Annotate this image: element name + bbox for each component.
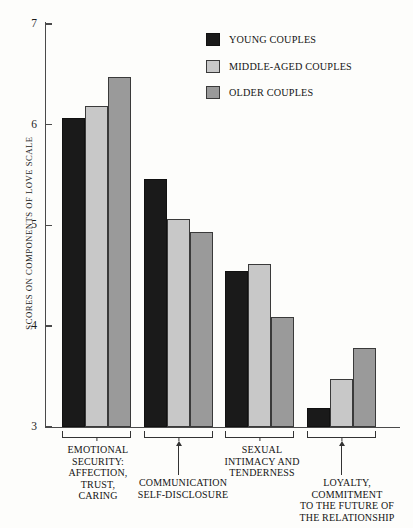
category-label-line: SELF-DISCLOSURE [122, 489, 244, 501]
y-tick-label: 5 [7, 219, 37, 231]
category-label-line: SEXUAL [212, 444, 312, 456]
category-bracket [62, 431, 131, 440]
category-label-line: SECURITY: [48, 456, 148, 468]
bar [330, 379, 353, 426]
love-scale-bar-chart: SCORES ON COMPONENTS OF LOVE SCALE 76543… [0, 0, 413, 528]
legend-swatch-icon [206, 60, 220, 73]
category-bracket [225, 431, 294, 440]
bar [190, 232, 213, 426]
bar [108, 77, 131, 426]
category-label: COMMUNICATIONSELF-DISCLOSURE [122, 477, 244, 500]
legend-swatch-icon [206, 86, 220, 99]
bracket-left-arm [307, 431, 308, 438]
bracket-right-arm [375, 431, 376, 438]
y-tick-label: 4 [7, 320, 37, 332]
legend-label: OLDER COUPLES [229, 87, 313, 98]
y-tick-label: 7 [7, 18, 37, 30]
legend-label: MIDDLE-AGED COUPLES [229, 61, 352, 72]
category-bracket [144, 431, 213, 440]
legend-item: OLDER COUPLES [206, 86, 352, 99]
bar [144, 179, 167, 427]
bracket-right-arm [130, 431, 131, 438]
bar [85, 106, 108, 427]
bracket-right-arm [293, 431, 294, 438]
category-label-line: TO THE FUTURE OF [282, 500, 412, 512]
bracket-center-tick [96, 437, 97, 441]
bracket-left-arm [144, 431, 145, 438]
category-label-line: EMOTIONAL [48, 444, 148, 456]
bracket-right-arm [212, 431, 213, 438]
bar [167, 219, 190, 426]
category-bracket [307, 431, 376, 440]
legend-swatch-icon [206, 33, 220, 46]
category-label-line: INTIMACY AND [212, 456, 312, 468]
chart-legend: YOUNG COUPLESMIDDLE-AGED COUPLESOLDER CO… [206, 33, 352, 113]
legend-item: YOUNG COUPLES [206, 33, 352, 46]
category-label-line: LOYALTY, [282, 477, 412, 489]
bar [62, 118, 85, 427]
category-leader-arrowhead [339, 441, 345, 446]
bar [225, 271, 248, 427]
legend-item: MIDDLE-AGED COUPLES [206, 60, 352, 73]
y-tick-label: 3 [7, 421, 37, 433]
x-axis-line [45, 427, 400, 428]
bar [307, 408, 330, 426]
category-leader-line [341, 446, 342, 475]
legend-label: YOUNG COUPLES [229, 34, 316, 45]
bracket-left-arm [62, 431, 63, 438]
category-leader-arrowhead [176, 441, 182, 446]
category-leader-line [178, 446, 179, 475]
category-label: LOYALTY,COMMITMENTTO THE FUTURE OFTHE RE… [282, 477, 412, 523]
bracket-left-arm [225, 431, 226, 438]
bracket-center-tick [259, 437, 260, 441]
y-tick-label: 6 [7, 119, 37, 131]
category-label: SEXUALINTIMACY ANDTENDERNESS [212, 444, 312, 479]
bar-group [144, 22, 213, 427]
bar [353, 348, 376, 427]
bar [271, 317, 294, 427]
y-axis-title: SCORES ON COMPONENTS OF LOVE SCALE [24, 118, 34, 348]
bar [248, 264, 271, 427]
bar-group [62, 22, 131, 427]
category-label-line: THE RELATIONSHIP [282, 512, 412, 524]
category-label-line: COMMITMENT [282, 489, 412, 501]
